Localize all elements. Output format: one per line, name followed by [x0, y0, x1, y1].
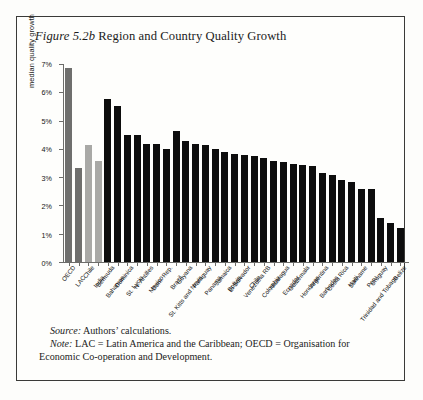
bar: [397, 228, 404, 262]
note-line: Note: LAC = Latin America and the Caribb…: [39, 337, 388, 363]
bar-item: Barbados: [327, 65, 337, 262]
bar-item: Bahamas: [113, 65, 123, 262]
x-tick: [293, 262, 294, 266]
bar-item: Haiti: [347, 65, 357, 262]
bar-series: OECDLACChileIndiaBermudaBahamasDominicaS…: [64, 65, 405, 262]
bar-item: Chile: [84, 65, 94, 262]
bar: [231, 154, 238, 262]
x-tick-label: OECD: [60, 264, 77, 282]
x-tick: [98, 262, 99, 266]
bar-item: Suriname: [357, 65, 367, 262]
x-tick: [254, 262, 255, 266]
bar: [114, 106, 121, 262]
bar-item: Colombia: [269, 65, 279, 262]
figure-page: Figure 5.2b Region and Country Quality G…: [0, 0, 423, 400]
bar: [212, 149, 219, 262]
bar: [182, 141, 189, 262]
bar: [358, 189, 365, 262]
bar-item: OECD: [64, 65, 74, 262]
bar: [153, 144, 160, 262]
bar: [338, 180, 345, 262]
x-tick: [137, 262, 138, 266]
bar-item: Paraguay: [201, 65, 211, 262]
bar-item: St. Kitts and Nevis: [191, 65, 201, 262]
bar-item: Dominica: [123, 65, 133, 262]
note-text: LAC = Latin America and the Caribbean; O…: [39, 338, 350, 362]
bar: [368, 189, 375, 262]
y-tick-label: 3%: [42, 173, 52, 182]
bar-item: Bolivia: [230, 65, 240, 262]
x-tick: [79, 262, 80, 266]
bar: [173, 131, 180, 262]
bar-item: Guyana: [181, 65, 191, 262]
bar-item: Nicaragua: [279, 65, 289, 262]
note-label: Note:: [50, 338, 72, 349]
figure-title-text: Region and Country Quality Growth: [98, 29, 286, 43]
x-tick: [118, 262, 119, 266]
bar-item: Jamaica: [220, 65, 230, 262]
x-tick: [215, 262, 216, 266]
bar: [192, 144, 199, 262]
figure-frame: Figure 5.2b Region and Country Quality G…: [16, 16, 405, 381]
figure-title: Figure 5.2b Region and Country Quality G…: [35, 29, 286, 44]
bar-item: LAC: [74, 65, 84, 262]
bar: [377, 218, 384, 262]
bar: [124, 135, 131, 262]
bar-item: Peru: [366, 65, 376, 262]
source-text: Authors’ calculations.: [81, 325, 171, 336]
y-tick-label: 0%: [42, 259, 52, 268]
bar-item: Belize: [396, 65, 406, 262]
source-line: Source: Authors’ calculations.: [39, 324, 388, 337]
y-tick-label: 2%: [42, 202, 52, 211]
x-tick: [157, 262, 158, 266]
bar: [95, 161, 102, 262]
y-axis-title: median quality growth: [27, 0, 36, 111]
bar: [280, 162, 287, 262]
bar-item: Guatemala: [298, 65, 308, 262]
x-tick: [274, 262, 275, 266]
bar: [143, 144, 150, 262]
bar-item: Mexico: [152, 65, 162, 262]
bar: [309, 166, 316, 262]
figure-notes: Source: Authors’ calculations. Note: LAC…: [39, 324, 388, 364]
bar-item: Uruguay: [376, 65, 386, 262]
x-tick-label: Belize: [392, 264, 408, 282]
bar-item: Brazil: [171, 65, 181, 262]
bar: [221, 152, 228, 262]
bar: [260, 158, 267, 262]
bar: [319, 173, 326, 262]
bar-item: Venezuela RB: [259, 65, 269, 262]
bar: [329, 175, 336, 262]
bar: [299, 165, 306, 262]
y-tick-label: 5%: [42, 116, 52, 125]
y-tick-label: 7%: [42, 60, 52, 69]
bar: [270, 161, 277, 262]
figure-number: Figure 5.2b: [35, 29, 95, 43]
x-tick: [391, 262, 392, 266]
bar-item: Trinidad and Tobago: [386, 65, 396, 262]
bar: [65, 68, 72, 262]
x-tick: [176, 262, 177, 266]
y-tick-label: 1%: [42, 230, 52, 239]
bar: [387, 223, 394, 262]
x-tick: [332, 262, 333, 266]
bar-item: N. Antilles: [142, 65, 152, 262]
bar-item: Dom. Rep.: [162, 65, 172, 262]
bar: [134, 135, 141, 262]
x-tick: [313, 262, 314, 266]
bar: [348, 182, 355, 262]
x-tick: [196, 262, 197, 266]
bar-item: Panama: [210, 65, 220, 262]
bar-item: St. Lucia: [132, 65, 142, 262]
x-tick: [235, 262, 236, 266]
x-axis-line: [63, 262, 409, 263]
bar: [290, 164, 297, 263]
chart-plot-area: median quality growth 0%1%2%3%4%5%6%7% O…: [63, 65, 405, 263]
x-tick: [371, 262, 372, 266]
y-tick-label: 6%: [42, 88, 52, 97]
bar: [75, 168, 82, 262]
x-tick-label: Chile: [82, 264, 96, 279]
bar-item: Ecuador: [288, 65, 298, 262]
bar-item: Honduras: [308, 65, 318, 262]
bar-item: Chile: [249, 65, 259, 262]
